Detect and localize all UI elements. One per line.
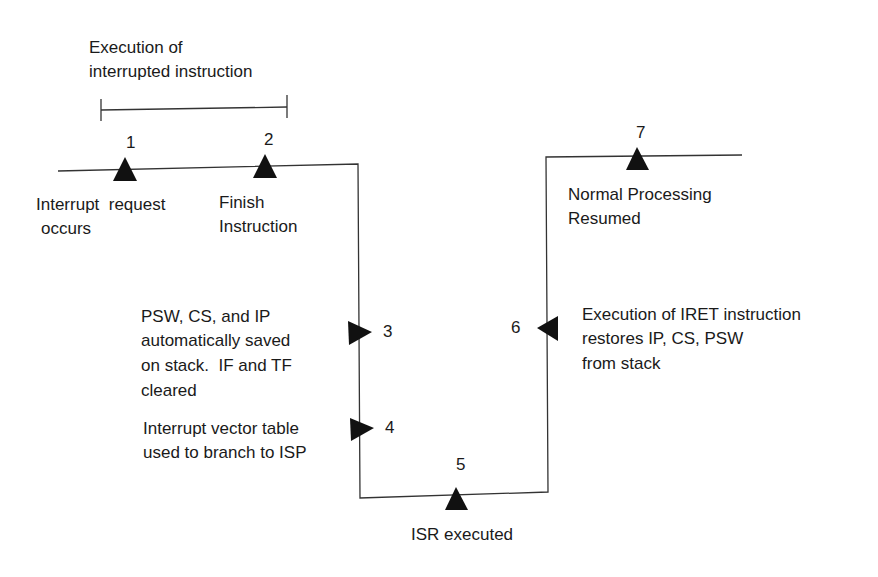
step-2-number: 2 <box>264 130 273 150</box>
step-4-number: 4 <box>385 418 394 438</box>
step-6-number: 6 <box>511 318 520 338</box>
step-1-label-line2: occurs <box>41 218 91 239</box>
step-1-label-line1: Interrupt request <box>36 194 165 215</box>
step-5-number: 5 <box>456 455 465 475</box>
step-3-label-line3: on stack. IF and TF <box>141 355 292 376</box>
step-6-label-line3: from stack <box>582 353 660 374</box>
step-5-label-line1: ISR executed <box>411 524 513 545</box>
step-6-label-line1: Execution of IRET instruction <box>582 304 801 325</box>
step-4-label-line2: used to branch to ISP <box>143 442 307 463</box>
timeline-diagram <box>0 0 878 577</box>
span-label-line2: interrupted instruction <box>89 61 252 82</box>
step-5-marker-icon <box>445 487 468 510</box>
step-7-number: 7 <box>636 123 645 143</box>
instruction-span-bracket <box>101 95 287 121</box>
span-label-line1: Execution of <box>89 37 183 58</box>
step-7-marker-icon <box>626 147 649 170</box>
step-2-label-line1: Finish <box>219 192 264 213</box>
step-4-marker-icon <box>350 418 374 441</box>
step-3-label-line1: PSW, CS, and IP <box>141 306 270 327</box>
step-1-number: 1 <box>126 133 135 153</box>
step-3-label-line2: automatically saved <box>141 330 290 351</box>
step-3-number: 3 <box>383 322 392 342</box>
step-7-label-line1: Normal Processing <box>568 184 712 205</box>
step-2-label-line2: Instruction <box>219 216 297 237</box>
step-4-label-line1: Interrupt vector table <box>143 418 299 439</box>
step-3-label-line4: cleared <box>141 380 197 401</box>
step-3-marker-icon <box>348 321 372 345</box>
step-6-label-line2: restores IP, CS, PSW <box>582 328 743 349</box>
step-7-label-line2: Resumed <box>568 208 641 229</box>
